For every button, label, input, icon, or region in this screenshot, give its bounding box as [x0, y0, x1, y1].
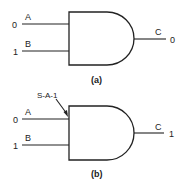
output-name-c: C	[155, 27, 162, 37]
input-name-a: A	[25, 107, 31, 117]
and-gate-a	[69, 12, 134, 65]
caption-a: (a)	[91, 75, 102, 85]
input-value-b: 1	[13, 47, 18, 57]
input-name-a: A	[25, 12, 31, 22]
input-value-a: 0	[13, 115, 18, 125]
and-gate-fault-diagram: 0 A 1 B C 0 (a) S-A-1 0 A 1 B C 1 (b)	[0, 0, 182, 185]
input-name-b: B	[25, 133, 31, 143]
diagram-b: S-A-1 0 A 1 B C 1 (b)	[13, 91, 174, 179]
caption-b: (b)	[91, 169, 103, 179]
input-value-b: 1	[13, 141, 18, 151]
input-value-a: 0	[12, 20, 17, 30]
output-name-c: C	[155, 122, 162, 132]
and-gate-b	[69, 106, 134, 160]
diagram-a: 0 A 1 B C 0 (a)	[12, 12, 175, 85]
input-name-b: B	[25, 39, 31, 49]
output-value-c: 0	[170, 35, 175, 45]
output-value-c: 1	[169, 129, 174, 139]
fault-label: S-A-1	[37, 91, 58, 100]
